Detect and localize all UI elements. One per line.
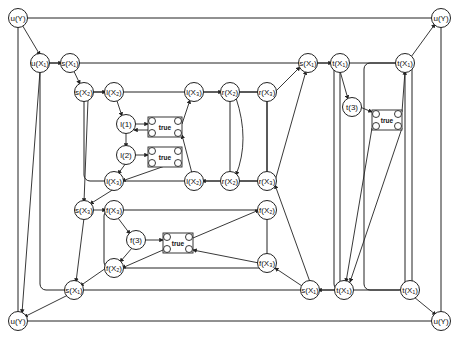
node-label: r(X₂) bbox=[222, 88, 239, 97]
node-sX3: s(X₃) bbox=[75, 201, 94, 220]
node-tX1_d: t(X₁) bbox=[401, 281, 420, 300]
true-box-4: true bbox=[372, 110, 402, 130]
node-sX1_br: s(X₁) bbox=[301, 281, 320, 300]
node-label: u(Y) bbox=[433, 317, 448, 326]
node-uY_tl: u(Y) bbox=[9, 9, 28, 28]
true-label: true bbox=[159, 124, 172, 131]
node-label: s(X₃) bbox=[75, 206, 93, 215]
node-rX2_top: r(X₂) bbox=[221, 83, 240, 102]
node-fX2_bot: f(X₂) bbox=[105, 259, 124, 278]
node-label: l(X₂) bbox=[186, 177, 202, 186]
node-label: l(X₃) bbox=[186, 88, 202, 97]
node-label: u(Y) bbox=[433, 14, 448, 23]
node-sX1_top: s(X₁) bbox=[61, 54, 80, 73]
node-label: l(X₂) bbox=[106, 88, 122, 97]
node-label: s(X₁) bbox=[299, 59, 317, 68]
node-label: l(1) bbox=[120, 120, 132, 129]
node-tX1_a: t(X₁) bbox=[331, 54, 350, 73]
true-box-2: true bbox=[148, 147, 182, 167]
node-label: l(2) bbox=[120, 151, 132, 160]
node-fX3_top: f(X₃) bbox=[105, 201, 124, 220]
true-label: true bbox=[172, 240, 185, 247]
box-r bbox=[230, 92, 267, 181]
node-label: f(X₃) bbox=[106, 206, 122, 215]
node-uX1: u(X₁) bbox=[31, 54, 50, 73]
true-box-3: true bbox=[163, 233, 193, 253]
node-label: f(X₂) bbox=[259, 206, 275, 215]
node-label: s(X₂) bbox=[75, 88, 93, 97]
node-rX3_bot: r(X₃) bbox=[258, 172, 277, 191]
node-label: f(X₃) bbox=[259, 259, 275, 268]
true-box-1: true bbox=[148, 117, 182, 137]
node-uY_br: u(Y) bbox=[432, 312, 451, 331]
true-label: true bbox=[159, 154, 172, 161]
node-label: u(Y) bbox=[10, 14, 25, 23]
node-uY_bl: u(Y) bbox=[9, 312, 28, 331]
node-lX3_top: l(X₃) bbox=[185, 83, 204, 102]
node-lX2_bot: l(X₂) bbox=[185, 172, 204, 191]
node-rX3_top: r(X₃) bbox=[258, 83, 277, 102]
container-boxes bbox=[18, 18, 441, 321]
node-tX1_b: t(X₁) bbox=[396, 54, 415, 73]
node-label: s(X₁) bbox=[301, 286, 319, 295]
node-label: u(Y) bbox=[10, 317, 25, 326]
process-graph-diagram: true true true true u(Y)u(X₁)s(X₁)s(X₂)l… bbox=[0, 0, 469, 348]
node-lX3_bot: l(X₃) bbox=[105, 172, 124, 191]
node-lX2_top: l(X₂) bbox=[105, 83, 124, 102]
node-f3: f(3) bbox=[127, 231, 146, 250]
node-label: t(X₁) bbox=[397, 59, 413, 68]
node-fX3_right: f(X₃) bbox=[258, 254, 277, 273]
node-rX2_bot: r(X₂) bbox=[221, 172, 240, 191]
node-label: r(X₃) bbox=[259, 177, 276, 186]
node-label: l(X₃) bbox=[106, 177, 122, 186]
node-sX2: s(X₂) bbox=[75, 83, 94, 102]
node-label: s(X₁) bbox=[65, 286, 83, 295]
node-label: t(3) bbox=[346, 103, 358, 112]
true-label: true bbox=[381, 117, 394, 124]
node-uY_tr: u(Y) bbox=[432, 9, 451, 28]
node-t3: t(3) bbox=[343, 98, 362, 117]
node-label: t(X₁) bbox=[402, 286, 418, 295]
node-fX2_right: f(X₂) bbox=[258, 201, 277, 220]
node-label: s(X₁) bbox=[61, 59, 79, 68]
node-label: r(X₃) bbox=[259, 88, 276, 97]
node-label: u(X₁) bbox=[31, 59, 49, 68]
node-tX1_c: t(X₁) bbox=[335, 281, 354, 300]
box-t bbox=[334, 63, 405, 290]
node-label: t(X₁) bbox=[336, 286, 352, 295]
node-l2: l(2) bbox=[117, 146, 136, 165]
node-label: r(X₂) bbox=[222, 177, 239, 186]
node-sX1_bl: s(X₁) bbox=[65, 281, 84, 300]
node-sX1_right: s(X₁) bbox=[299, 54, 318, 73]
node-label: f(3) bbox=[130, 236, 142, 245]
node-label: f(X₂) bbox=[106, 264, 122, 273]
node-l1: l(1) bbox=[117, 115, 136, 134]
node-label: t(X₁) bbox=[332, 59, 348, 68]
